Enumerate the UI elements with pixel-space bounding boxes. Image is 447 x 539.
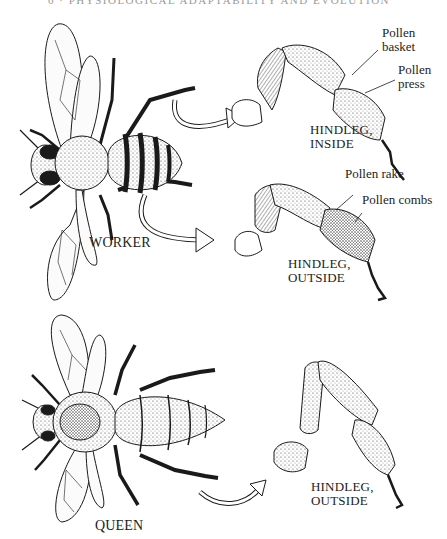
queen-bee bbox=[22, 315, 225, 522]
caption-worker: WORKER bbox=[89, 236, 151, 250]
callout-pollen-basket: Pollen basket bbox=[382, 26, 415, 54]
callout-pollen-press: Pollen press bbox=[398, 63, 431, 91]
callout-pollen-combs: Pollen combs bbox=[362, 193, 432, 207]
callout-line: press bbox=[398, 77, 431, 91]
caption-queen: QUEEN bbox=[95, 519, 143, 533]
label-line: HINDLEG, bbox=[288, 257, 351, 271]
bee-illustration bbox=[0, 0, 447, 539]
label-line: OUTSIDE bbox=[311, 494, 374, 508]
label-line: HINDLEG, bbox=[310, 123, 373, 137]
label-line: HINDLEG, bbox=[311, 480, 374, 494]
label-line: OUTSIDE bbox=[288, 271, 351, 285]
arrow-to-outside-leg bbox=[141, 195, 205, 240]
label-hindleg-outside-queen: HINDLEG, OUTSIDE bbox=[311, 480, 374, 508]
label-line: INSIDE bbox=[310, 137, 373, 151]
callout-line: basket bbox=[382, 40, 415, 54]
worker-bee bbox=[20, 24, 195, 300]
worker-hindleg-inside bbox=[232, 45, 404, 180]
label-hindleg-inside: HINDLEG, INSIDE bbox=[310, 123, 373, 151]
callout-line: Pollen bbox=[382, 26, 415, 40]
callout-line: Pollen bbox=[398, 63, 431, 77]
label-hindleg-outside-worker: HINDLEG, OUTSIDE bbox=[288, 257, 351, 285]
callout-pollen-rake: Pollen rake bbox=[345, 167, 404, 181]
